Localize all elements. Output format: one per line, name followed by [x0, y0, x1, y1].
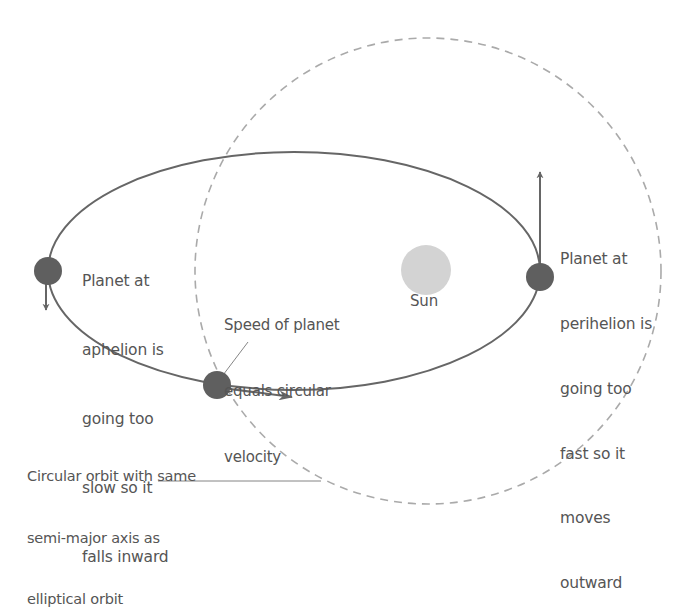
planet-perihelion [526, 263, 554, 291]
circular-speed-label-line: velocity [224, 446, 340, 468]
circular-orbit-label: Circular orbit with same semi-major axis… [27, 425, 196, 611]
circular-speed-label-line: Speed of planet [224, 314, 340, 336]
circular-orbit-label-line: semi-major axis as [27, 528, 196, 549]
circular-orbit-label-line: elliptical orbit [27, 589, 196, 610]
sun-label: Sun [410, 291, 438, 313]
aphelion-label-line: Planet at [82, 270, 168, 293]
sun [401, 245, 451, 295]
perihelion-label-line: fast so it [560, 444, 652, 466]
perihelion-label-line: Planet at [560, 249, 652, 271]
perihelion-label-line: moves [560, 508, 652, 530]
perihelion-label: Planet at perihelion is going too fast s… [560, 206, 652, 611]
perihelion-label-line: going too [560, 379, 652, 401]
perihelion-label-line: outward [560, 573, 652, 595]
perihelion-label-line: perihelion is [560, 314, 652, 336]
circular-orbit-label-line: Circular orbit with same [27, 466, 196, 487]
planet-aphelion [34, 257, 62, 285]
circular-speed-label-line: equals circular [224, 380, 340, 402]
circular-speed-label: Speed of planet equals circular velocity [224, 270, 340, 490]
aphelion-label-line: aphelion is [82, 339, 168, 362]
